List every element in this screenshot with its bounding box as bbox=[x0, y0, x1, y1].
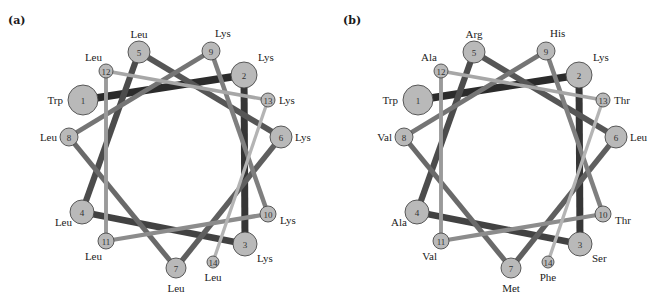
residue-9: 9His bbox=[537, 27, 565, 60]
residue-label: Lys bbox=[295, 131, 311, 143]
residue-label: His bbox=[550, 27, 565, 39]
residue-7: 7Leu bbox=[166, 258, 186, 294]
residue-5: 5Leu bbox=[128, 28, 150, 63]
residue-number: 1 bbox=[81, 96, 86, 106]
residue-2: 2Lys bbox=[566, 51, 609, 88]
residue-label: Lys bbox=[593, 51, 609, 63]
residue-14: 14Leu bbox=[204, 256, 222, 283]
residue-2: 2Lys bbox=[231, 51, 274, 88]
residue-label: Ala bbox=[421, 51, 437, 63]
residue-label: Lys bbox=[280, 214, 296, 226]
residue-number: 2 bbox=[242, 71, 247, 81]
residue-6: 6Lys bbox=[270, 126, 311, 148]
helical-wheel-panel-b: (b) 14Phe13Thr12Ala11Val10Thr9His8Val7Me… bbox=[343, 14, 648, 294]
residue-number: 12 bbox=[437, 67, 446, 77]
residue-number: 9 bbox=[209, 47, 214, 57]
residue-number: 10 bbox=[599, 210, 609, 220]
residue-label: Phe bbox=[540, 271, 557, 283]
residue-label: Trp bbox=[48, 94, 64, 106]
residue-nodes: 14Phe13Thr12Ala11Val10Thr9His8Val7Met6Le… bbox=[377, 27, 647, 294]
residue-number: 11 bbox=[437, 237, 446, 247]
residue-number: 11 bbox=[102, 237, 111, 247]
residue-number: 8 bbox=[67, 133, 72, 143]
residue-number: 12 bbox=[102, 67, 111, 77]
residue-number: 7 bbox=[174, 264, 179, 274]
residue-label: Lys bbox=[215, 27, 231, 39]
residue-number: 4 bbox=[415, 208, 420, 218]
residue-label: Leu bbox=[204, 271, 222, 283]
residue-number: 1 bbox=[416, 96, 421, 106]
residue-label: Lys bbox=[279, 94, 295, 106]
residue-number: 14 bbox=[544, 258, 554, 268]
residue-number: 4 bbox=[80, 208, 85, 218]
residue-4: 4Leu bbox=[55, 200, 94, 228]
residue-number: 6 bbox=[614, 133, 619, 143]
residue-4: 4Ala bbox=[391, 200, 429, 228]
residue-number: 9 bbox=[544, 47, 549, 57]
residue-label: Leu bbox=[167, 282, 185, 294]
residue-10: 10Lys bbox=[260, 206, 296, 226]
residue-label: Leu bbox=[55, 216, 73, 228]
residue-number: 14 bbox=[209, 258, 219, 268]
residue-nodes: 14Leu13Lys12Leu11Leu10Lys9Lys8Leu7Leu6Ly… bbox=[40, 27, 311, 294]
residue-number: 2 bbox=[577, 71, 582, 81]
residue-label: Val bbox=[422, 250, 437, 262]
residue-label: Trp bbox=[383, 94, 399, 106]
residue-11: 11Leu bbox=[85, 233, 114, 262]
panel-label-b: (b) bbox=[343, 14, 361, 27]
residue-14: 14Phe bbox=[540, 256, 557, 283]
helical-wheel-figure: (a) 14Leu13Lys12Leu11Leu10Lys9Lys8Leu7Le… bbox=[0, 0, 659, 304]
residue-label: Met bbox=[502, 282, 520, 294]
panel-label-a: (a) bbox=[8, 14, 26, 27]
residue-label: Leu bbox=[130, 28, 148, 40]
residue-5: 5Arg bbox=[463, 28, 485, 63]
residue-number: 5 bbox=[137, 48, 142, 58]
residue-13: 13Thr bbox=[596, 93, 630, 107]
residue-label: Thr bbox=[615, 214, 631, 226]
residue-3: 3Lys bbox=[233, 232, 273, 264]
residue-number: 13 bbox=[599, 96, 609, 106]
residue-label: Thr bbox=[614, 94, 630, 106]
residue-label: Lys bbox=[257, 252, 273, 264]
residue-label: Leu bbox=[85, 250, 103, 262]
residue-number: 8 bbox=[402, 133, 407, 143]
residue-label: Leu bbox=[85, 51, 103, 63]
residue-9: 9Lys bbox=[202, 27, 231, 60]
residue-12: 12Leu bbox=[85, 51, 113, 78]
residue-13: 13Lys bbox=[261, 93, 295, 107]
residue-number: 3 bbox=[243, 240, 248, 250]
residue-number: 10 bbox=[264, 210, 274, 220]
residue-number: 13 bbox=[264, 96, 274, 106]
residue-3: 3Ser bbox=[568, 232, 607, 264]
residue-8: 8Val bbox=[377, 128, 413, 146]
residue-12: 12Ala bbox=[421, 51, 448, 78]
residue-number: 7 bbox=[509, 264, 514, 274]
residue-label: Ser bbox=[592, 252, 607, 264]
residue-label: Ala bbox=[391, 216, 407, 228]
residue-7: 7Met bbox=[501, 258, 521, 294]
residue-label: Leu bbox=[40, 131, 58, 143]
residue-11: 11Val bbox=[422, 233, 449, 262]
residue-1: 1Trp bbox=[383, 85, 434, 115]
residue-8: 8Leu bbox=[40, 128, 78, 146]
residue-6: 6Leu bbox=[605, 126, 648, 148]
residue-label: Arg bbox=[466, 28, 483, 40]
residue-label: Leu bbox=[630, 131, 648, 143]
residue-number: 5 bbox=[472, 48, 477, 58]
residue-label: Val bbox=[377, 131, 392, 143]
helical-wheel-panel-a: (a) 14Leu13Lys12Leu11Leu10Lys9Lys8Leu7Le… bbox=[8, 14, 311, 294]
residue-label: Lys bbox=[258, 51, 274, 63]
residue-number: 3 bbox=[578, 240, 583, 250]
residue-number: 6 bbox=[279, 133, 284, 143]
residue-10: 10Thr bbox=[595, 206, 631, 226]
residue-1: 1Trp bbox=[48, 85, 99, 115]
